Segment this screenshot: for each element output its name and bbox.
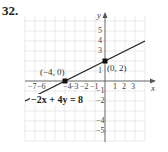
svg-text:−7: −7 <box>28 82 37 91</box>
equation-label: −2x + 4y = 8 <box>31 94 83 105</box>
svg-text:−3: −3 <box>70 82 79 91</box>
svg-text:−2: −2 <box>96 96 105 105</box>
coordinate-graph: x y −7 −6 −4 −3 −2 −1 1 2 3 5 4 3 1 −1 −… <box>0 0 168 152</box>
y-axis-arrow-icon <box>103 12 108 18</box>
point-a-label: (−4, 0) <box>40 67 65 77</box>
point-b-label: (0, 2) <box>107 63 127 73</box>
svg-text:−2: −2 <box>80 82 89 91</box>
svg-text:5: 5 <box>98 26 102 35</box>
svg-text:2: 2 <box>122 82 126 91</box>
svg-text:−6: −6 <box>37 82 46 91</box>
svg-text:−1: −1 <box>96 86 105 95</box>
x-tick-labels: −7 −6 −4 −3 −2 −1 1 2 3 <box>28 82 135 91</box>
grid <box>25 16 145 141</box>
svg-text:1: 1 <box>98 66 102 75</box>
svg-text:3: 3 <box>131 82 135 91</box>
svg-text:−5: −5 <box>96 126 105 135</box>
axes <box>25 16 153 142</box>
svg-text:3: 3 <box>98 46 102 55</box>
x-axis-label: x <box>150 83 155 93</box>
y-axis-label: y <box>96 10 101 20</box>
y-tick-labels: 5 4 3 1 −1 −2 −4 −5 <box>96 26 105 135</box>
point-a-marker <box>63 79 68 84</box>
svg-text:1: 1 <box>113 82 117 91</box>
svg-text:4: 4 <box>98 36 102 45</box>
svg-text:−4: −4 <box>96 116 105 125</box>
